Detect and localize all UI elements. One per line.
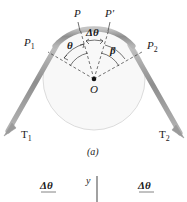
figure-container: P P′ P1 P2 θ Δθ β O T1 T2 (a) Δθ y Δθ: [0, 0, 187, 202]
label-point-p-prime: P′: [105, 8, 114, 19]
label-point-p1: P1: [24, 37, 35, 51]
label-angle-theta: θ: [67, 40, 73, 51]
center-point-marker: [92, 77, 97, 82]
label-center-o: O: [90, 84, 98, 95]
label-tension-t2-subscript: 2: [166, 134, 170, 143]
label-angle-beta: β: [110, 45, 116, 56]
label-angle-delta-theta: Δθ: [86, 27, 99, 38]
bottom-label-delta-theta-left: Δθ: [40, 180, 53, 191]
label-point-p2: P2: [147, 40, 158, 54]
label-tension-t1: T1: [21, 129, 32, 143]
label-point-p2-subscript: 2: [154, 45, 158, 54]
label-point-p1-subscript: 1: [31, 42, 35, 51]
label-tension-t1-subscript: 1: [28, 134, 32, 143]
label-point-p1-base: P: [24, 36, 31, 48]
bottom-label-delta-theta-right: Δθ: [138, 180, 151, 191]
label-tension-t2-base: T: [159, 128, 166, 140]
label-tension-t2: T2: [159, 129, 170, 143]
label-tension-t1-base: T: [21, 128, 28, 140]
label-point-p2-base: P: [147, 39, 154, 51]
label-point-p: P: [74, 8, 81, 19]
bottom-label-y-axis: y: [86, 176, 90, 186]
figure-caption: (a): [87, 147, 99, 157]
